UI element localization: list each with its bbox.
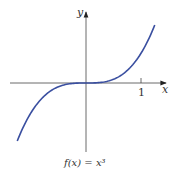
function-caption: f(x) = x³ [64,157,106,168]
x-axis-label: x [162,83,168,96]
y-axis-label: y [77,6,83,19]
cubic-plot [0,0,176,179]
x-tick-label: 1 [138,86,145,99]
